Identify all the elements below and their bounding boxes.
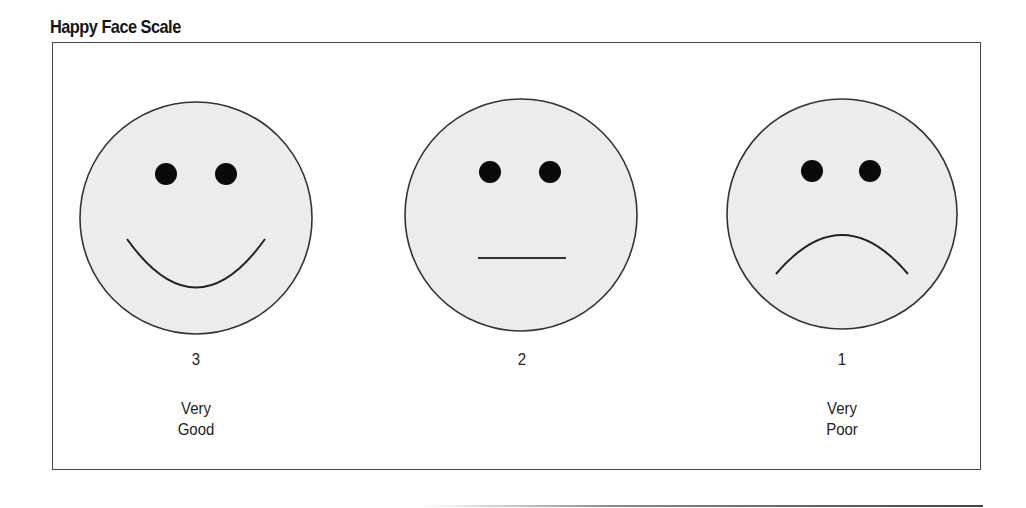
smiling-face-icon bbox=[80, 102, 312, 334]
description-line: Poor bbox=[789, 419, 895, 440]
score-label-1: 1 bbox=[789, 350, 895, 370]
description-very-good: Very Good bbox=[143, 398, 249, 440]
description-line: Very bbox=[143, 398, 249, 419]
description-very-poor: Very Poor bbox=[789, 398, 895, 440]
neutral-face-icon bbox=[405, 99, 637, 331]
score-label-3: 3 bbox=[143, 350, 249, 370]
description-line: Good bbox=[143, 419, 249, 440]
score-label-2: 2 bbox=[469, 350, 575, 370]
frowning-face-icon bbox=[727, 99, 957, 329]
description-line: Very bbox=[789, 398, 895, 419]
bottom-divider bbox=[420, 505, 983, 507]
